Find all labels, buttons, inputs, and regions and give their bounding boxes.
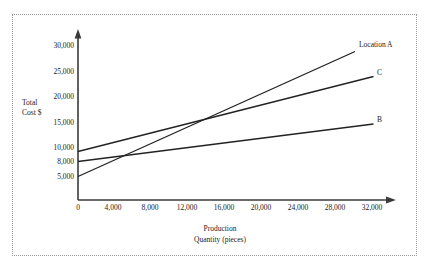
- series-label-c: C: [377, 68, 382, 77]
- y-axis-title-line1: Total: [22, 98, 37, 108]
- x-axis-arrow-icon: [386, 196, 396, 203]
- y-tick-label-30000: 30,000: [32, 41, 74, 50]
- series-label-b: B: [377, 115, 382, 124]
- x-axis-title-line2: Quantity (pieces): [150, 235, 290, 245]
- series-line-b: [78, 124, 374, 162]
- y-tick-label-25000: 25,000: [32, 67, 74, 76]
- y-tick-label-15000: 15,000: [32, 118, 74, 127]
- series-line-location-a: [78, 52, 355, 177]
- y-tick-label-8000: 8,000: [32, 157, 74, 166]
- x-tick-label-8000: 8,000: [135, 203, 165, 212]
- x-tick-label-28000: 28,000: [320, 203, 350, 212]
- x-tick-label-20000: 20,000: [246, 203, 276, 212]
- series-line-c: [78, 77, 374, 152]
- x-tick-label-16000: 16,000: [209, 203, 239, 212]
- y-axis-arrow-icon: [75, 29, 82, 39]
- y-tick-label-20000: 20,000: [32, 92, 74, 101]
- x-tick-label-4000: 4,000: [98, 203, 128, 212]
- x-tick-label-32000: 32,000: [357, 203, 387, 212]
- x-axis-title-line1: Production: [150, 224, 290, 234]
- series-label-location-a: Location A: [359, 40, 393, 49]
- chart-figure: 30,000 25,000 20,000 15,000 10,000 8,000…: [0, 0, 429, 275]
- y-axis-title-line2: Cost $: [22, 108, 41, 118]
- x-tick-label-24000: 24,000: [283, 203, 313, 212]
- x-tick-label-0: 0: [63, 203, 93, 212]
- x-tick-label-12000: 12,000: [172, 203, 202, 212]
- y-tick-label-10000: 10,000: [32, 143, 74, 152]
- y-tick-label-5000: 5,000: [32, 172, 74, 181]
